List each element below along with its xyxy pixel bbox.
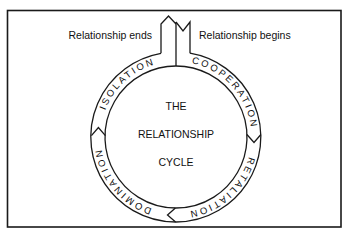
segment-isolation: ISOLATION [97, 56, 157, 112]
chevron-domination-to-isolation-icon [91, 128, 105, 136]
label-relationship-ends: Relationship ends [69, 29, 152, 41]
exit-arrow-icon [161, 16, 176, 53]
chevron-cooperation-to-retaliation-icon [247, 135, 261, 143]
label-relationship-begins: Relationship begins [199, 29, 291, 41]
relationship-cycle-diagram: COOPERATION RETALIATION DOMINATION ISOLA… [0, 0, 349, 237]
center-title-line-2: RELATIONSHIP [138, 128, 214, 140]
segment-retaliation: RETALIATION [187, 156, 258, 220]
chevron-retaliation-to-domination-icon [168, 208, 176, 222]
segment-cooperation: COOPERATION [191, 54, 260, 129]
diagram-frame [8, 11, 342, 228]
entry-arrow-tail-icon [176, 22, 190, 53]
center-title-line-3: CYCLE [158, 156, 193, 168]
center-title-line-1: THE [166, 100, 187, 112]
segment-domination: DOMINATION [92, 147, 152, 217]
